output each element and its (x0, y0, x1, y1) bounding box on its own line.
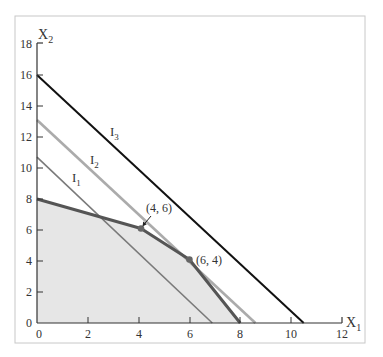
y-tick-label: 18 (20, 37, 32, 51)
x-tick-label: 2 (85, 327, 91, 341)
y-tick-label: 2 (26, 285, 32, 299)
y-tick-label: 12 (20, 130, 32, 144)
point-4-6 (138, 225, 145, 232)
y-tick-label: 10 (20, 161, 32, 175)
y-tick-label: 4 (26, 254, 32, 268)
point-6-4 (186, 256, 193, 263)
y-tick-label: 16 (20, 68, 32, 82)
y-tick-label: 6 (26, 223, 32, 237)
y-tick-label: 8 (26, 192, 32, 206)
x-tick-label: 6 (187, 327, 193, 341)
x-tick-label: 10 (285, 327, 297, 341)
y-tick-label: 14 (20, 99, 32, 113)
x-tick-label: 0 (36, 327, 42, 341)
x-tick-label: 4 (136, 327, 142, 341)
y-tick-label: 0 (26, 316, 32, 330)
chart: 0 2 4 6 8 10 12 14 16 18 0 2 4 6 8 10 12… (0, 0, 383, 357)
label-point-6-4: (6, 4) (196, 253, 222, 267)
x-tick-label: 8 (237, 327, 243, 341)
label-point-4-6: (4, 6) (146, 201, 172, 215)
